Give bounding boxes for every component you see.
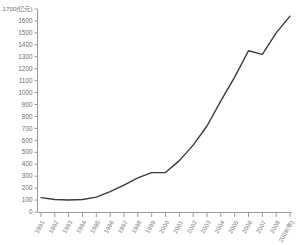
y-axis-tick-label: 1400 — [18, 41, 33, 48]
x-axis-tick-label: 2002 — [185, 219, 198, 235]
y-axis-tick-label: 0 — [29, 208, 33, 215]
y-axis-tick-label: 900 — [22, 101, 33, 108]
x-axis-tick-labels: 1991199219931994199519961997199819992000… — [33, 219, 296, 244]
x-axis-tick-label: 2000 — [157, 219, 170, 235]
y-axis-tick-label: 1700(亿元) — [3, 5, 33, 13]
y-axis-tick-label: 200 — [22, 184, 33, 191]
plot-area — [41, 16, 290, 200]
y-axis-tick-label: 1600 — [18, 17, 33, 24]
x-axis-tick-label: 2006 — [240, 219, 253, 235]
x-axis-tick-label: 2005 — [227, 219, 240, 235]
x-axis-tick-label: 1995 — [88, 219, 101, 235]
chart-canvas: 0100200300400500600700800900100011001200… — [0, 0, 298, 245]
y-axis-tick-label: 700 — [22, 125, 33, 132]
x-axis-tick-label: 1996 — [102, 219, 115, 235]
x-axis-tick-label: 1991 — [33, 219, 46, 235]
x-axis-tick-label: 2003 — [199, 219, 212, 235]
x-axis-tick-label: 1997 — [116, 219, 129, 235]
x-axis-tick-label: 2001 — [171, 219, 184, 235]
x-axis-tick-label: 1994 — [74, 219, 87, 235]
y-axis-tick-label: 800 — [22, 113, 33, 120]
y-axis-tick-label: 1100 — [19, 77, 33, 84]
data-series-line — [41, 16, 290, 200]
y-axis-tick-label: 300 — [22, 172, 33, 179]
y-axis-tick-label: 400 — [22, 160, 33, 167]
x-axis-tick-label: 1998 — [130, 219, 143, 235]
x-axis-tick-label: 1992 — [47, 219, 60, 235]
x-axis-tick-label: 2008 — [268, 219, 281, 235]
y-axis-tick-labels: 0100200300400500600700800900100011001200… — [3, 5, 33, 215]
y-axis: 0100200300400500600700800900100011001200… — [3, 5, 38, 215]
line-chart: 0100200300400500600700800900100011001200… — [0, 0, 298, 245]
x-axis-tick-label: 1993 — [61, 219, 74, 235]
y-axis-tick-label: 1200 — [18, 65, 33, 72]
x-axis: 1991199219931994199519961997199819992000… — [33, 212, 296, 244]
x-axis-tick-label: 2004 — [213, 219, 226, 235]
x-axis-tick-label: 2007 — [254, 219, 267, 235]
y-axis-tick-label: 600 — [22, 137, 33, 144]
x-axis-tick-label: 1999 — [144, 219, 157, 235]
y-axis-tick-label: 100 — [22, 196, 33, 203]
y-axis-tick-label: 1000 — [18, 89, 33, 96]
y-axis-tick-label: 1500 — [18, 29, 33, 36]
y-axis-tick-label: 500 — [22, 148, 33, 155]
y-axis-tick-label: 1300 — [18, 53, 33, 60]
